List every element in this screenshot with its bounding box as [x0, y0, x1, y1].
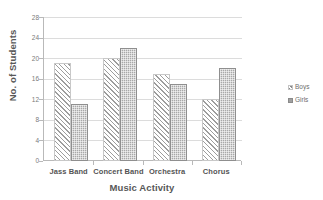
bar-chart: No. of Students 28 24 20 16 12 8 4 0	[0, 0, 323, 200]
x-tick-mark-1	[93, 161, 94, 165]
bar-girls-jass-band[interactable]	[71, 104, 88, 161]
bar-boys-orchestra[interactable]	[153, 74, 170, 161]
y-tick-label-8: 8	[23, 117, 39, 124]
bar-group-chorus	[192, 17, 241, 161]
y-tick-label-0: 0	[23, 158, 39, 165]
bar-girls-chorus[interactable]	[219, 68, 236, 161]
x-tick-label-orchestra: Orchestra	[143, 167, 192, 176]
bar-group-concert-band	[93, 17, 142, 161]
bar-boys-chorus[interactable]	[202, 99, 219, 161]
bar-group-jass-band	[44, 17, 93, 161]
chart-legend: Boys Girls	[288, 82, 323, 108]
x-tick-mark-3	[192, 161, 193, 165]
x-axis-title: Music Activity	[43, 182, 241, 193]
bar-girls-concert-band[interactable]	[120, 48, 137, 161]
bar-boys-jass-band[interactable]	[54, 63, 71, 161]
bar-group-orchestra	[143, 17, 192, 161]
y-tick-label-12: 12	[23, 97, 39, 104]
y-tick-label-16: 16	[23, 76, 39, 83]
bar-boys-concert-band[interactable]	[103, 58, 120, 161]
chart-title-strip	[0, 0, 323, 7]
y-axis-title: No. of Students	[7, 11, 18, 121]
y-tick-label-4: 4	[23, 138, 39, 145]
legend-label-girls: Girls	[295, 97, 308, 104]
y-tick-label-28: 28	[23, 15, 39, 22]
bar-girls-orchestra[interactable]	[170, 84, 187, 161]
legend-swatch-girls-icon	[288, 98, 293, 103]
x-tick-mark-2	[143, 161, 144, 165]
y-tick-label-20: 20	[23, 56, 39, 63]
x-tick-label-jass-band: Jass Band	[44, 167, 93, 176]
legend-entry-boys[interactable]: Boys	[288, 82, 323, 92]
x-tick-mark-4	[241, 161, 242, 165]
y-tick-label-24: 24	[23, 35, 39, 42]
x-tick-label-chorus: Chorus	[192, 167, 241, 176]
x-tick-label-concert-band: Concert Band	[93, 167, 142, 176]
legend-label-boys: Boys	[295, 84, 309, 91]
bars-layer	[44, 17, 241, 161]
legend-entry-girls[interactable]: Girls	[288, 95, 323, 105]
legend-swatch-boys-icon	[288, 85, 293, 90]
